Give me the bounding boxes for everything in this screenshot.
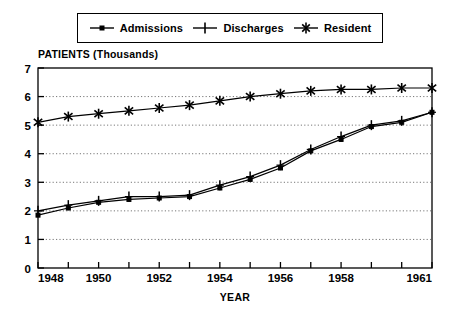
data-series-layer [34, 83, 436, 217]
x-tick-label: 1961 [406, 272, 432, 284]
y-tick-label: 1 [25, 234, 32, 246]
y-tick-label: 7 [25, 63, 31, 75]
x-tick-label: 1948 [38, 272, 64, 284]
y-tick-labels: 01234567 [25, 63, 32, 275]
y-tick-label: 4 [25, 148, 32, 160]
x-tick-label: 1956 [268, 272, 294, 284]
y-tick-label: 5 [25, 120, 32, 132]
x-tick-label: 1950 [86, 272, 112, 284]
x-tick-label: 1958 [328, 272, 354, 284]
y-tick-label: 2 [25, 205, 31, 217]
x-axis-title: YEAR [220, 291, 250, 303]
y-tick-label: 3 [25, 177, 31, 189]
chart-plot-area: 01234567 1948195019521954195619581961 YE… [0, 0, 465, 316]
gridlines [39, 97, 431, 240]
x-tick-label: 1954 [207, 272, 233, 284]
x-tick-marks [38, 262, 432, 268]
series-resident [34, 83, 436, 127]
x-tick-labels: 1948195019521954195619581961 [38, 272, 433, 284]
series-discharges [34, 107, 436, 216]
chart-figure: Admissions Discharges Resident [0, 0, 465, 316]
y-tick-label: 0 [25, 263, 31, 275]
y-tick-label: 6 [25, 91, 31, 103]
plot-frame [38, 68, 432, 268]
x-tick-label: 1952 [146, 272, 172, 284]
y-tick-marks [38, 68, 44, 268]
